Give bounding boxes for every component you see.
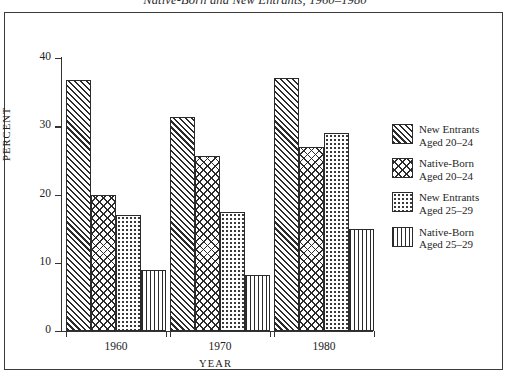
legend-label-line2: Aged 20–24 xyxy=(419,170,474,183)
bar xyxy=(349,229,374,331)
legend-item: Native-BornAged 25–29 xyxy=(392,226,502,251)
legend-label-line1: Native-Born xyxy=(419,226,474,239)
x-axis-tick xyxy=(170,331,171,337)
y-axis-title: PERCENT xyxy=(1,107,12,161)
x-axis-line xyxy=(61,331,373,332)
x-axis-tick xyxy=(274,331,275,337)
legend-label-line1: New Entrants xyxy=(419,191,479,204)
chart-frame: PERCENT YEAR 010203040 196019701980 New … xyxy=(4,12,503,370)
legend-item: Native-BornAged 20–24 xyxy=(392,157,502,182)
bar xyxy=(195,156,220,331)
legend-label-line2: Aged 20–24 xyxy=(419,136,479,149)
legend-swatch-icon xyxy=(392,158,413,178)
legend-swatch-icon xyxy=(392,124,413,144)
y-axis-tick-label: 40 xyxy=(40,50,52,62)
y-axis-tick-label: 30 xyxy=(40,118,52,130)
legend-label: New EntrantsAged 20–24 xyxy=(419,123,479,148)
legend-label: Native-BornAged 20–24 xyxy=(419,157,474,182)
legend-label-line2: Aged 25–29 xyxy=(419,238,474,251)
y-axis-tick: 10 xyxy=(55,263,62,264)
bar xyxy=(116,215,141,331)
y-axis-tick-label: 0 xyxy=(45,323,51,335)
x-axis-title: YEAR xyxy=(62,358,369,369)
x-axis-tick xyxy=(270,331,271,337)
plot-area xyxy=(62,58,369,331)
y-axis-tick: 20 xyxy=(55,195,62,196)
bar xyxy=(220,212,245,331)
bar xyxy=(141,270,166,331)
bar xyxy=(66,80,91,331)
legend-label: Native-BornAged 25–29 xyxy=(419,226,474,251)
bar xyxy=(299,147,324,331)
legend-label-line1: New Entrants xyxy=(419,123,479,136)
legend-label-line2: Aged 25–29 xyxy=(419,204,479,217)
legend-item: New EntrantsAged 25–29 xyxy=(392,191,502,216)
legend-swatch-icon xyxy=(392,192,413,212)
bar xyxy=(91,195,116,332)
bar xyxy=(274,78,299,331)
y-axis-tick: 0 xyxy=(55,331,62,332)
legend-item: New EntrantsAged 20–24 xyxy=(392,123,502,148)
y-axis-tick: 40 xyxy=(55,58,62,59)
bar xyxy=(324,133,349,331)
bar xyxy=(170,117,195,331)
x-axis-group-label: 1980 xyxy=(313,340,336,352)
x-axis-group-label: 1970 xyxy=(209,340,232,352)
y-axis-tick-label: 10 xyxy=(40,255,52,267)
x-axis-group-label: 1960 xyxy=(105,340,128,352)
legend-swatch-icon xyxy=(392,227,413,247)
y-axis-tick-label: 20 xyxy=(40,187,52,199)
y-axis-tick: 30 xyxy=(55,126,62,127)
legend-label-line1: Native-Born xyxy=(419,157,474,170)
legend-label: New EntrantsAged 25–29 xyxy=(419,191,479,216)
bar xyxy=(245,275,270,331)
chart-legend: New EntrantsAged 20–24Native-BornAged 20… xyxy=(392,123,502,260)
x-axis-tick xyxy=(374,331,375,337)
figure-title: Native-Born and New Entrants, 1960–1980 xyxy=(0,0,510,8)
x-axis-tick xyxy=(166,331,167,337)
x-axis-tick xyxy=(66,331,67,337)
